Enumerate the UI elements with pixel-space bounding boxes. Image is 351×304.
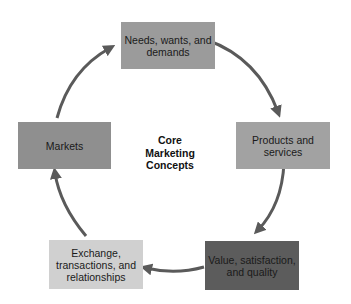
node-products-services: Products and services [236, 122, 330, 169]
node-value-satisfaction-quality: Value, satisfaction, and quality [205, 241, 299, 290]
arrow-exchange-to-markets [55, 173, 86, 236]
node-label: Value, satisfaction, and quality [208, 254, 296, 278]
arrow-products-to-value [258, 163, 284, 230]
node-exchange-transactions-relationships: Exchange, transactions, and relationship… [49, 240, 143, 289]
center-title-line: Marketing [130, 147, 210, 160]
center-title: Core Marketing Concepts [130, 134, 210, 172]
arrow-markets-to-needs [57, 48, 110, 118]
arrow-value-to-exchange [146, 267, 204, 271]
node-label: Needs, wants, and demands [124, 34, 212, 58]
center-title-line: Core [130, 134, 210, 147]
node-label: Exchange, transactions, and relationship… [52, 247, 140, 283]
node-markets: Markets [18, 122, 111, 169]
arrow-needs-to-products [207, 40, 278, 112]
node-label: Markets [46, 140, 83, 152]
node-needs-wants-demands: Needs, wants, and demands [121, 22, 215, 69]
node-label: Products and services [239, 134, 327, 158]
center-title-line: Concepts [130, 159, 210, 172]
